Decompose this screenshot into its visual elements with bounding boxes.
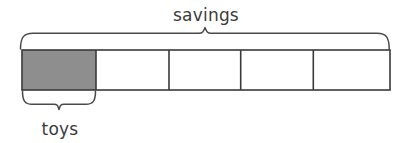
tape-diagram-figure: savings toys: [0, 0, 405, 143]
tape-bar: [22, 50, 390, 90]
toys-brace: [23, 91, 96, 110]
tape-cell-3: [241, 50, 314, 90]
tape-diagram-canvas: savings toys: [0, 0, 405, 143]
savings-label: savings: [173, 5, 239, 25]
tape-cell-4: [313, 50, 390, 90]
toys-brace-path: [23, 91, 96, 110]
tape-cell-2: [169, 50, 241, 90]
savings-brace: [21, 28, 390, 50]
toys-label: toys: [42, 119, 79, 139]
savings-brace-path: [21, 28, 390, 50]
tape-cell-1: [96, 50, 169, 90]
tape-cell-0-shaded: [22, 50, 96, 90]
